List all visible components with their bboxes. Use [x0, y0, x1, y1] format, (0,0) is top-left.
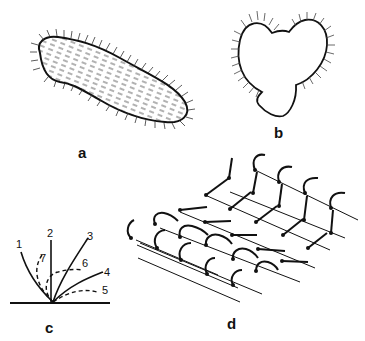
figure-canvas: a b 1 2 3 4 5 [0, 0, 365, 341]
position-label-2: 2 [47, 227, 53, 239]
position-label-4: 4 [104, 266, 110, 278]
panel-a-organism [30, 29, 195, 129]
panel-label-d: d [227, 315, 236, 332]
panel-d-metachronal-rows [128, 155, 358, 302]
cilium-base-dots [129, 168, 333, 287]
panel-label-c: c [45, 319, 53, 336]
position-label-7: 7 [40, 252, 46, 264]
position-label-1: 1 [16, 238, 22, 250]
position-label-6: 6 [82, 257, 88, 269]
position-label-3: 3 [87, 230, 93, 242]
panel-c-beat-cycle [10, 238, 110, 303]
panel-b-larva [231, 11, 335, 116]
panel-label-a: a [78, 144, 87, 161]
panel-label-b: b [274, 124, 283, 141]
position-label-5: 5 [102, 284, 108, 296]
beat-position-labels: 1 2 3 4 5 6 7 [16, 227, 110, 296]
